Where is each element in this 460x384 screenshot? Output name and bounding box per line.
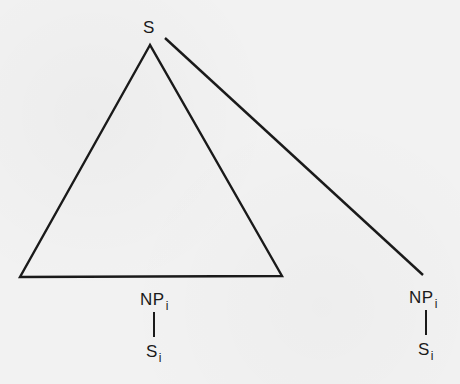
right-np-subscript: i bbox=[435, 297, 438, 311]
right-s-label: Si bbox=[418, 341, 434, 362]
left-np-subscript: i bbox=[166, 299, 169, 313]
right-s-subscript: i bbox=[431, 349, 434, 363]
branch-s-to-right-np bbox=[165, 38, 423, 275]
right-s-text: S bbox=[418, 340, 430, 359]
left-np-to-s-branch bbox=[153, 312, 155, 337]
root-s-text: S bbox=[143, 18, 155, 37]
left-s-subscript: i bbox=[159, 351, 162, 365]
left-np-label: NPi bbox=[140, 291, 169, 312]
triangle-constituent bbox=[20, 45, 282, 277]
left-np-text: NP bbox=[140, 290, 165, 309]
right-np-to-s-branch bbox=[425, 310, 427, 335]
left-s-label: Si bbox=[146, 343, 162, 364]
left-s-text: S bbox=[146, 342, 158, 361]
tree-diagram bbox=[0, 0, 460, 384]
right-np-text: NP bbox=[409, 288, 434, 307]
root-s-label: S bbox=[143, 19, 155, 36]
right-np-label: NPi bbox=[409, 289, 438, 310]
